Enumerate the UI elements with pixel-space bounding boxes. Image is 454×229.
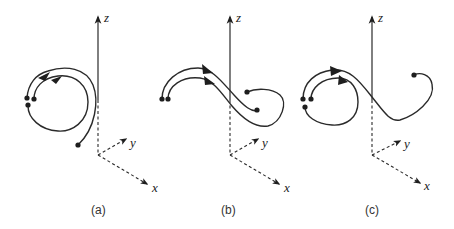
z-axis-label: z <box>235 10 241 25</box>
caption-a: (a) <box>91 203 106 217</box>
end-point <box>244 89 249 94</box>
axes-a: z y x <box>98 10 158 195</box>
panel-a: z y x (a) <box>24 10 158 217</box>
start-point <box>31 96 36 101</box>
y-axis <box>98 139 126 155</box>
y-axis <box>230 139 258 155</box>
x-axis-label: x <box>423 178 430 193</box>
axes-c: z y x <box>372 10 430 193</box>
trajectories-a <box>24 68 95 147</box>
end-point <box>25 102 30 107</box>
caption-b: (b) <box>221 203 236 217</box>
panel-b: z y x (b) <box>159 10 290 217</box>
trajectories-c <box>300 66 432 125</box>
end-point <box>254 107 259 112</box>
start-point <box>159 96 164 101</box>
inner-trajectory <box>305 78 358 125</box>
trajectories-b <box>159 64 283 126</box>
x-axis <box>98 155 147 184</box>
start-point <box>165 96 170 101</box>
arrowhead-icon <box>204 76 215 85</box>
axes-b: z y x <box>230 10 290 195</box>
x-axis-label: x <box>151 180 158 195</box>
start-point <box>300 96 305 101</box>
y-axis-label: y <box>260 135 268 150</box>
y-axis-label: y <box>402 136 410 151</box>
end-point <box>302 104 307 109</box>
end-point <box>75 142 80 147</box>
inner-trajectory <box>28 76 88 131</box>
arrowhead-icon <box>202 64 213 74</box>
start-point <box>24 95 29 100</box>
end-point <box>411 72 416 77</box>
x-axis-label: x <box>283 180 290 195</box>
arrowhead-icon <box>38 72 50 81</box>
arrowhead-icon <box>330 66 342 76</box>
outer-trajectory <box>27 68 96 145</box>
trajectory-diagram: z y x (a) z y x <box>0 0 454 229</box>
start-point <box>308 96 313 101</box>
caption-c: (c) <box>365 203 379 217</box>
y-axis <box>372 141 400 155</box>
z-axis-label: z <box>103 10 109 25</box>
x-axis <box>230 155 279 184</box>
z-axis-label: z <box>377 10 383 25</box>
y-axis-label: y <box>128 135 136 150</box>
upper-trajectory <box>162 68 258 111</box>
x-axis <box>372 155 420 183</box>
panel-c: z y x (c) <box>300 10 432 217</box>
